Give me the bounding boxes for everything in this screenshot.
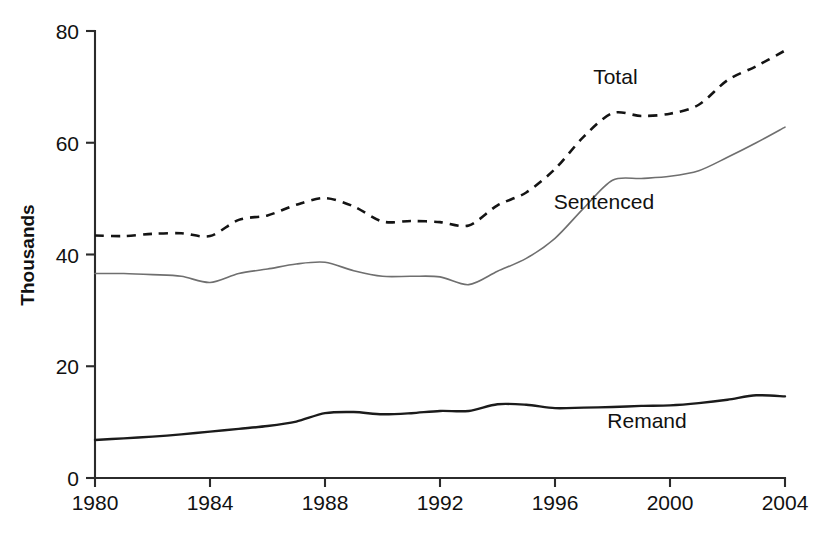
x-axis-ticks bbox=[95, 478, 785, 487]
y-tick-label: 60 bbox=[56, 132, 79, 155]
x-tick-label: 1996 bbox=[532, 491, 579, 514]
y-tick-label: 40 bbox=[56, 244, 79, 267]
y-tick-label: 80 bbox=[56, 20, 79, 43]
x-axis-tick-labels: 1980198419881992199620002004 bbox=[72, 491, 809, 514]
x-tick-label: 2004 bbox=[762, 491, 809, 514]
x-tick-label: 2000 bbox=[647, 491, 694, 514]
x-tick-label: 1988 bbox=[302, 491, 349, 514]
series-line-sentenced bbox=[95, 127, 785, 285]
y-axis-title: Thousands bbox=[17, 204, 38, 305]
series-label-remand: Remand bbox=[607, 409, 686, 432]
x-tick-label: 1984 bbox=[187, 491, 234, 514]
chart-container: Thousands 020406080 19801984198819921996… bbox=[0, 0, 825, 537]
series-label-total: Total bbox=[593, 65, 637, 88]
series-line-total bbox=[95, 51, 785, 237]
x-tick-label: 1992 bbox=[417, 491, 464, 514]
y-axis-tick-labels: 020406080 bbox=[56, 20, 79, 490]
x-tick-label: 1980 bbox=[72, 491, 119, 514]
y-tick-label: 20 bbox=[56, 355, 79, 378]
y-tick-label: 0 bbox=[67, 467, 79, 490]
series-label-sentenced: Sentenced bbox=[554, 190, 654, 213]
series-annotations: TotalSentencedRemand bbox=[554, 65, 687, 432]
y-axis-ticks bbox=[86, 31, 95, 478]
line-chart: Thousands 020406080 19801984198819921996… bbox=[0, 0, 825, 537]
